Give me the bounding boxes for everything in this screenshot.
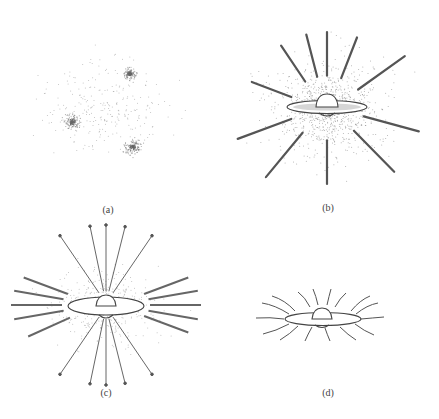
panel-c-label: (c)	[100, 387, 111, 398]
panel-b-label: (b)	[322, 202, 334, 213]
panel-d-galaxy	[285, 308, 361, 328]
panel-c-galaxy	[68, 295, 144, 318]
panel-b-galaxy	[287, 94, 367, 116]
panel-d-label: (d)	[322, 387, 334, 398]
panel-a-label: (a)	[102, 204, 113, 215]
figure-canvas	[0, 0, 439, 419]
panel-a-particles	[33, 44, 186, 158]
